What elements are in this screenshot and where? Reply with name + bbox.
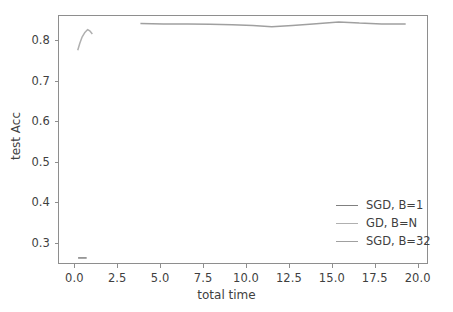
legend-line-swatch xyxy=(336,205,358,206)
y-tick-mark xyxy=(55,162,59,163)
x-tick-mark xyxy=(246,264,247,268)
x-tick-label: 12.5 xyxy=(276,271,302,285)
legend-label: SGD, B=1 xyxy=(366,199,423,212)
x-tick-mark xyxy=(117,264,118,268)
legend-entry[interactable]: GD, B=N xyxy=(336,217,431,230)
x-tick-label: 5.0 xyxy=(151,271,170,285)
series-line-2 xyxy=(140,22,405,27)
chart-legend: SGD, B=1GD, B=NSGD, B=32 xyxy=(336,199,431,248)
x-tick-mark xyxy=(74,264,75,268)
x-axis-label: total time xyxy=(0,288,453,302)
x-tick-label: 7.5 xyxy=(194,271,213,285)
x-tick-mark xyxy=(375,264,376,268)
y-tick-mark xyxy=(55,202,59,203)
y-tick-label: 0.3 xyxy=(4,236,50,250)
legend-entry[interactable]: SGD, B=32 xyxy=(336,235,431,248)
legend-label: GD, B=N xyxy=(366,217,417,230)
x-tick-mark xyxy=(289,264,290,268)
x-tick-mark xyxy=(160,264,161,268)
y-tick-label: 0.4 xyxy=(4,195,50,209)
x-tick-label: 0.0 xyxy=(65,271,84,285)
y-tick-mark xyxy=(55,81,59,82)
series-line-1 xyxy=(78,30,93,51)
x-tick-mark xyxy=(203,264,204,268)
y-tick-mark xyxy=(55,40,59,41)
x-tick-label: 10.0 xyxy=(233,271,259,285)
figure-canvas: 0.30.40.50.60.70.8 0.02.55.07.510.012.51… xyxy=(0,0,453,312)
y-axis-label: test Acc xyxy=(9,76,23,196)
legend-line-swatch xyxy=(336,241,358,242)
x-tick-label: 2.5 xyxy=(108,271,127,285)
legend-label: SGD, B=32 xyxy=(366,235,431,248)
y-tick-mark xyxy=(55,243,59,244)
x-tick-label: 20.0 xyxy=(405,271,431,285)
y-tick-label: 0.8 xyxy=(4,33,50,47)
x-tick-mark xyxy=(332,264,333,268)
y-tick-mark xyxy=(55,121,59,122)
legend-line-swatch xyxy=(336,223,358,224)
legend-entry[interactable]: SGD, B=1 xyxy=(336,199,431,212)
x-tick-mark xyxy=(418,264,419,268)
x-tick-label: 17.5 xyxy=(362,271,388,285)
x-tick-label: 15.0 xyxy=(319,271,345,285)
